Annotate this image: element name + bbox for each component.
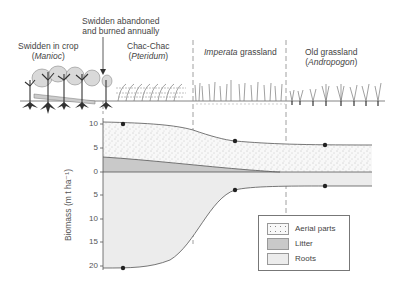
y-axis-label: Biomass (m t ha⁻¹) (63, 169, 73, 241)
legend: Aerial parts Litter Roots (258, 215, 350, 271)
vegetation-illustration (20, 37, 385, 114)
roots-swatch (267, 253, 289, 265)
legend-item-aerial: Aerial parts (267, 222, 335, 235)
ytick-0: 0 (84, 167, 98, 176)
ytick-20-down: 20 (84, 261, 98, 270)
ytick-5-down: 5 (84, 190, 98, 199)
ytick-15-down: 15 (84, 237, 98, 246)
ytick-10-down: 10 (84, 214, 98, 223)
legend-item-litter: Litter (267, 237, 313, 250)
legend-item-roots: Roots (267, 252, 316, 265)
litter-swatch (267, 238, 289, 250)
arrow-head-icon (100, 69, 106, 75)
imperata-grass (195, 80, 285, 104)
ytick-5-up: 5 (84, 143, 98, 152)
aerial-swatch (267, 223, 289, 235)
legend-label-aerial: Aerial parts (295, 224, 335, 233)
fern-plants (116, 84, 186, 101)
ytick-10-up: 10 (84, 119, 98, 128)
legend-label-litter: Litter (295, 239, 313, 248)
andropogon-grass (290, 83, 381, 106)
legend-label-roots: Roots (295, 254, 316, 263)
